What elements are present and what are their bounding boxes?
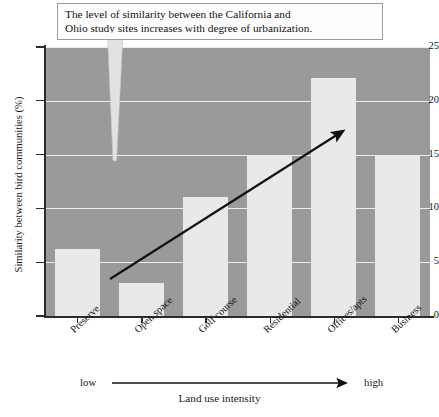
intensity-arrow-icon xyxy=(110,376,360,392)
x-axis-title: Land use intensity xyxy=(0,392,439,404)
y-axis-tick xyxy=(36,262,44,263)
y-axis-tick-label: 10 xyxy=(405,201,439,212)
land-use-intensity-scale: low high xyxy=(0,376,439,392)
intensity-low-label: low xyxy=(80,376,96,388)
bar xyxy=(311,78,356,316)
y-axis-line xyxy=(44,45,46,318)
bar xyxy=(183,197,228,316)
intensity-high-label: high xyxy=(364,376,383,388)
figure-caption xyxy=(6,408,436,417)
gridline xyxy=(45,208,430,209)
y-axis-tick xyxy=(36,46,44,47)
y-axis-tick xyxy=(36,208,44,209)
bar xyxy=(247,155,292,316)
y-axis-tick xyxy=(36,154,44,155)
y-axis-tick-label: 15 xyxy=(405,148,439,159)
annotation-line-1: The level of similarity between the Cali… xyxy=(65,7,376,21)
gridline xyxy=(45,101,430,102)
annotation-notch xyxy=(106,33,124,36)
gridline xyxy=(45,155,430,156)
x-axis-line xyxy=(44,316,434,318)
y-axis-tick-label: 20 xyxy=(405,94,439,105)
y-axis-tick-label: 25 xyxy=(405,40,439,51)
plot-area xyxy=(45,47,430,316)
y-axis-tick xyxy=(36,100,44,101)
y-axis-tick xyxy=(36,315,44,316)
gridline xyxy=(45,47,430,48)
y-axis-title: Similarity between bird communities (%) xyxy=(13,60,24,310)
gridline xyxy=(45,262,430,263)
y-axis-tick-label: 5 xyxy=(405,255,439,266)
bar xyxy=(375,155,420,316)
